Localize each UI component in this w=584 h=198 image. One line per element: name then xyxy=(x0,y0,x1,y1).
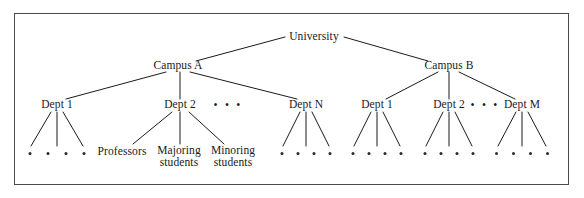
a-deptn-leaf-1 xyxy=(283,112,300,146)
node-minoring-students: Minoring students xyxy=(211,145,255,169)
node-professors: Professors xyxy=(98,146,147,158)
leaf-dot xyxy=(352,152,355,155)
leaf-dot xyxy=(329,152,332,155)
leaf-dot xyxy=(65,152,68,155)
campus-a-to-dept1 xyxy=(66,72,166,99)
campus-b-to-deptm xyxy=(459,72,515,99)
b-dept2-leaf-3 xyxy=(455,112,472,146)
leaf-dot xyxy=(368,152,371,155)
minoring-students-line-2: students xyxy=(211,157,255,169)
leaf-dot xyxy=(29,152,32,155)
a-dept1-leaf-3 xyxy=(63,112,83,146)
leaf-dot xyxy=(297,152,300,155)
node-campus-b: Campus B xyxy=(424,60,473,72)
node-campus-b-dept-1: Dept 1 xyxy=(361,99,393,111)
leaf-dot xyxy=(424,152,427,155)
leaf-dot xyxy=(313,152,316,155)
university-to-campus-b xyxy=(344,37,428,61)
leaf-dot xyxy=(472,152,475,155)
b-dept1-leaf-3 xyxy=(383,112,400,146)
node-university: University xyxy=(289,31,339,43)
leaf-dot xyxy=(83,152,86,155)
campus-b-to-dept1 xyxy=(386,72,438,99)
campus-a-dept-ellipsis: • • • xyxy=(214,99,243,111)
node-campus-a-dept-1: Dept 1 xyxy=(41,99,73,111)
b-deptm-leaves xyxy=(495,146,549,158)
leaf-dot xyxy=(281,152,284,155)
node-campus-a-dept-2: Dept 2 xyxy=(164,99,196,111)
leaf-dot xyxy=(47,152,50,155)
b-deptm-leaf-1 xyxy=(498,112,516,146)
leaf-dot xyxy=(400,152,403,155)
a-dept2-to-minoring xyxy=(189,112,224,144)
node-campus-b-dept-2: Dept 2 xyxy=(433,99,465,111)
leaf-dot xyxy=(546,152,549,155)
b-dept2-leaves xyxy=(424,146,475,158)
b-deptm-leaf-3 xyxy=(528,112,546,146)
a-dept1-leaves xyxy=(29,146,86,158)
leaf-dot xyxy=(495,152,498,155)
a-deptn-leaf-3 xyxy=(312,112,329,146)
a-deptn-leaves xyxy=(281,146,332,158)
campus-b-dept-ellipsis: • • • xyxy=(471,99,500,111)
node-campus-a-dept-n: Dept N xyxy=(289,99,323,111)
tree-diagram-figure: University Campus A Campus B Dept 1 Dept… xyxy=(0,0,584,198)
a-dept2-to-professors xyxy=(133,112,172,144)
node-campus-b-dept-m: Dept M xyxy=(504,99,540,111)
university-to-campus-a xyxy=(196,37,285,61)
leaf-dot xyxy=(529,152,532,155)
leaf-dot xyxy=(440,152,443,155)
node-campus-a: Campus A xyxy=(153,60,202,72)
b-dept1-leaves xyxy=(352,146,403,158)
leaf-dot xyxy=(456,152,459,155)
leaf-dot xyxy=(512,152,515,155)
leaf-dot xyxy=(384,152,387,155)
b-dept1-leaf-1 xyxy=(354,112,371,146)
b-dept2-leaf-1 xyxy=(426,112,443,146)
node-majoring-students: Majoring students xyxy=(157,145,201,169)
majoring-students-line-2: students xyxy=(157,157,201,169)
campus-a-to-deptn xyxy=(190,72,297,99)
a-dept1-leaf-1 xyxy=(31,112,51,146)
